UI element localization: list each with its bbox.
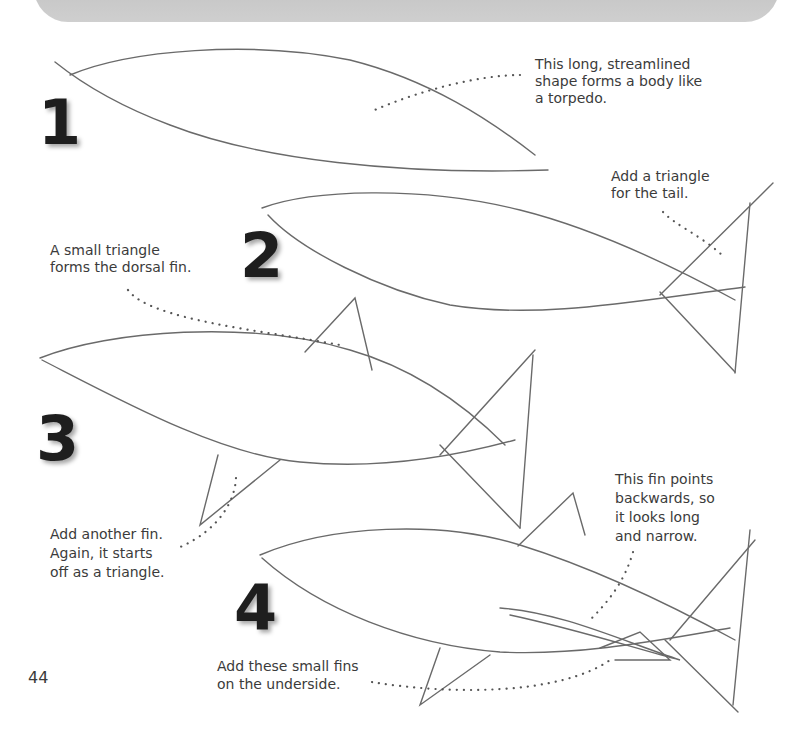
caption-step4-underside: Add these small fins on the underside. (217, 657, 359, 693)
step3-body-outline (40, 298, 535, 528)
step3-pectoral-fin (200, 455, 280, 525)
step-number-3: 3 (36, 408, 79, 470)
step-number-4: 4 (234, 577, 277, 639)
step4-tail-upper (670, 540, 755, 640)
shark-drawing-steps (0, 0, 797, 750)
caption-step2-dorsal: A small triangle forms the dorsal fin. (50, 242, 191, 276)
step-number-1: 1 (38, 92, 81, 154)
step4-lower-fin (420, 648, 490, 705)
step4-pelvic-fin (600, 632, 670, 660)
caption-step1: This long, streamlined shape forms a bod… (535, 56, 702, 107)
leader-step4-lower (372, 660, 610, 690)
step-number-2: 2 (240, 225, 283, 287)
step3-dorsal-fin (305, 298, 372, 370)
caption-step3: Add another fin. Again, it starts off as… (50, 525, 164, 582)
step1-body-outline (55, 49, 548, 171)
leader-step2-tail (663, 212, 722, 255)
leader-step3-fin (178, 478, 236, 548)
page-number: 44 (28, 668, 48, 687)
caption-step4-fin: This fin points backwards, so it looks l… (615, 470, 715, 546)
step3-tail-upper (440, 350, 535, 455)
step4-dorsal-fin (518, 493, 585, 546)
leader-step1 (370, 75, 520, 112)
leader-step2-dorsal (128, 290, 340, 345)
caption-step2-tail: Add a triangle for the tail. (611, 168, 710, 202)
